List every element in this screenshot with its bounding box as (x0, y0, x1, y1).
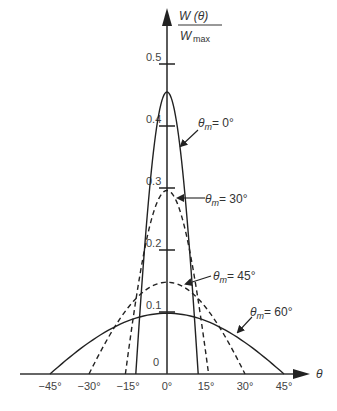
svg-text:θm= 30°: θm= 30° (205, 192, 248, 208)
y-tick-label: 0.5 (146, 51, 161, 63)
x-tick-label: −15° (116, 380, 139, 392)
svg-text:θm= 60°: θm= 60° (250, 305, 293, 321)
x-tick-label: −45° (38, 380, 61, 392)
x-tick-label: 15° (198, 380, 215, 392)
annotation-theta-0: θm= 0° (181, 116, 234, 146)
svg-text:θm= 0°: θm= 0° (198, 116, 234, 132)
y-axis-label-denominator-sub: max (193, 34, 211, 44)
x-axis-arrow-icon (293, 369, 310, 379)
x-tick-label: 0° (162, 380, 173, 392)
y-tick-label: 0.3 (146, 175, 161, 187)
annotation-theta-45: θm= 45° (186, 269, 256, 285)
annotation-theta-30: θm= 30° (178, 192, 248, 208)
y-tick-label: 0 (153, 356, 159, 368)
annotation-theta-60: θm= 60° (238, 305, 293, 332)
x-tick-label: −30° (77, 380, 100, 392)
chart: θ W (θ) W max 00.10.20.30.40.5 −45°−30°−… (0, 0, 337, 411)
y-tick-label: 0.1 (146, 299, 161, 311)
x-axis-label: θ (316, 367, 323, 381)
y-axis: W (θ) W max (162, 8, 222, 374)
x-tick-label: 30° (237, 380, 254, 392)
y-axis-arrow-icon (162, 8, 172, 26)
svg-text:θm= 45°: θm= 45° (213, 269, 256, 285)
x-tick-label: 45° (276, 380, 293, 392)
y-axis-label-denominator: W (180, 29, 193, 43)
y-ticks: 00.10.20.30.40.5 (146, 51, 175, 368)
y-axis-label-numerator: W (θ) (179, 9, 208, 23)
x-ticks: −45°−30°−15°0°15°30°45° (38, 380, 292, 392)
y-tick-label: 0.2 (146, 237, 161, 249)
